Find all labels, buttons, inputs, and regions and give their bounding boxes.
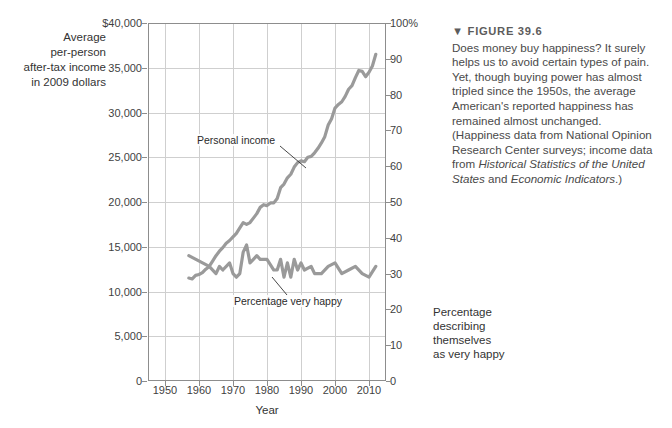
gridline-vertical bbox=[301, 24, 302, 380]
right-axis-tick-mark bbox=[386, 202, 391, 203]
caption-text-end: .) bbox=[615, 172, 622, 185]
left-axis-tick-mark bbox=[142, 247, 147, 248]
right-axis-tick-mark bbox=[386, 23, 391, 24]
x-axis-tick-mark bbox=[301, 381, 302, 386]
left-axis-tick-label: 0 bbox=[86, 375, 142, 387]
figure-panel: Average per-person after-tax income in 2… bbox=[0, 0, 672, 428]
left-axis-tick-label: 35,000 bbox=[86, 62, 142, 74]
left-axis-tick-label: 10,000 bbox=[86, 286, 142, 298]
right-axis-tick-mark bbox=[386, 309, 391, 310]
left-axis-tick-mark bbox=[142, 202, 147, 203]
left-axis-tick-label: 20,000 bbox=[86, 196, 142, 208]
right-axis-tick-label: 80 bbox=[390, 89, 430, 101]
x-axis-tick-mark bbox=[233, 381, 234, 386]
x-axis-tick-mark bbox=[335, 381, 336, 386]
right-axis-tick-mark bbox=[386, 166, 391, 167]
annotation-percentage-very-happy: Percentage very happy bbox=[233, 295, 343, 307]
left-axis-tick-mark bbox=[142, 381, 147, 382]
gridline-vertical bbox=[233, 24, 234, 380]
right-axis-tick-mark bbox=[386, 381, 391, 382]
chart-plot-area bbox=[148, 23, 386, 381]
caption-marker-icon: ▼ bbox=[452, 25, 464, 37]
right-axis-tick-mark bbox=[386, 274, 391, 275]
caption-text-mid: and bbox=[485, 172, 511, 185]
right-axis-tick-mark bbox=[386, 95, 391, 96]
right-axis-tick-mark bbox=[386, 130, 391, 131]
right-axis-tick-label: 100% bbox=[390, 17, 430, 29]
right-axis-tick-mark bbox=[386, 345, 391, 346]
figure-caption-body: Does money buy happiness? It surely help… bbox=[452, 41, 660, 187]
caption-text-part-1: Does money buy happiness? It surely help… bbox=[452, 41, 652, 171]
left-axis-tick-mark bbox=[142, 157, 147, 158]
right-axis-tick-label: 20 bbox=[390, 303, 430, 315]
right-axis-title-line-3: themselves bbox=[433, 333, 543, 347]
gridline-vertical bbox=[199, 24, 200, 380]
right-axis-ticks: 0102030405060708090100% bbox=[390, 23, 430, 381]
gridline-vertical bbox=[335, 24, 336, 380]
right-axis-tick-mark bbox=[386, 59, 391, 60]
right-axis-tick-mark bbox=[386, 238, 391, 239]
gridline-vertical bbox=[267, 24, 268, 380]
right-axis-tick-label: 70 bbox=[390, 124, 430, 136]
x-axis-tick-mark bbox=[165, 381, 166, 386]
right-axis-tick-label: 0 bbox=[390, 375, 430, 387]
left-axis-ticks: 05,00010,00015,00020,00025,00030,00035,0… bbox=[84, 23, 142, 381]
left-axis-tick-mark bbox=[142, 292, 147, 293]
right-axis-tick-label: 10 bbox=[390, 339, 430, 351]
figure-caption-heading: ▼ FIGURE 39.6 bbox=[452, 24, 660, 39]
right-axis-title: Percentage describing themselves as very… bbox=[433, 305, 543, 361]
left-axis-tick-label: 15,000 bbox=[86, 241, 142, 253]
gridline-vertical bbox=[165, 24, 166, 380]
left-axis-tick-mark bbox=[142, 23, 147, 24]
x-axis-title: Year bbox=[148, 404, 386, 416]
x-axis-tick-mark bbox=[267, 381, 268, 386]
left-axis-tick-mark bbox=[142, 113, 147, 114]
left-axis-tick-label: $40,000 bbox=[86, 17, 142, 29]
figure-number: FIGURE 39.6 bbox=[468, 25, 543, 37]
right-axis-tick-label: 90 bbox=[390, 53, 430, 65]
x-axis-ticks: 1950196019701980199020002010 bbox=[148, 384, 386, 404]
left-axis-tick-label: 25,000 bbox=[86, 151, 142, 163]
figure-caption: ▼ FIGURE 39.6 Does money buy happiness? … bbox=[452, 24, 660, 187]
left-axis-tick-label: 5,000 bbox=[86, 330, 142, 342]
x-axis-tick-mark bbox=[369, 381, 370, 386]
right-axis-tick-label: 50 bbox=[390, 196, 430, 208]
right-axis-title-line-1: Percentage bbox=[433, 305, 543, 319]
right-axis-tick-label: 40 bbox=[390, 232, 430, 244]
gridline-vertical bbox=[369, 24, 370, 380]
left-axis-tick-mark bbox=[142, 336, 147, 337]
annotation-personal-income: Personal income bbox=[196, 134, 276, 146]
right-axis-tick-label: 60 bbox=[390, 160, 430, 172]
right-axis-title-line-2: describing bbox=[433, 319, 543, 333]
right-axis-tick-label: 30 bbox=[390, 268, 430, 280]
x-axis-tick-mark bbox=[199, 381, 200, 386]
caption-source-2: Economic Indicators bbox=[511, 172, 615, 185]
left-axis-tick-label: 30,000 bbox=[86, 107, 142, 119]
left-axis-tick-mark bbox=[142, 68, 147, 69]
right-axis-title-line-4: as very happy bbox=[433, 347, 543, 361]
